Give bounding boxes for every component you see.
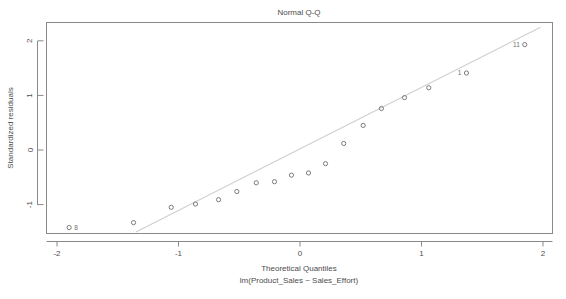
- outlier-label-group: 8111: [74, 41, 520, 231]
- data-point: [464, 71, 468, 75]
- y-tick-label: 0: [26, 147, 35, 152]
- x-tick-label: -1: [175, 249, 183, 258]
- data-point: [193, 202, 197, 206]
- y-tick-label: 1: [26, 93, 35, 98]
- data-point: [67, 225, 71, 229]
- data-point: [427, 86, 431, 90]
- outlier-label: 11: [513, 41, 520, 48]
- data-point: [272, 180, 276, 184]
- data-point: [323, 162, 327, 166]
- chart-subtitle: lm(Product_Sales ~ Sales_Effort): [240, 276, 359, 285]
- data-point: [523, 43, 527, 47]
- data-point: [361, 123, 365, 127]
- data-point: [289, 173, 293, 177]
- y-axis: -1012: [26, 38, 44, 208]
- x-axis-title: Theoretical Quantiles: [261, 264, 337, 273]
- reference-line: [136, 27, 541, 232]
- data-point: [254, 181, 258, 185]
- y-axis-title: Standardized residuals: [6, 87, 15, 168]
- outlier-label: 8: [74, 224, 78, 231]
- chart-title: Normal Q-Q: [277, 8, 320, 17]
- outlier-label: 1: [458, 69, 462, 76]
- x-axis: -2-1012: [47, 242, 553, 259]
- x-tick-label: 2: [541, 249, 546, 258]
- qq-plot-figure: 8111 -2-1012 -1012 Normal Q-Q Theoretica…: [0, 0, 566, 299]
- qq-reference-line: [136, 27, 541, 232]
- qq-plot-canvas: 8111 -2-1012 -1012 Normal Q-Q Theoretica…: [0, 0, 566, 299]
- data-point: [216, 198, 220, 202]
- plot-panel-border: [47, 23, 553, 234]
- data-point: [169, 205, 173, 209]
- data-point: [235, 189, 239, 193]
- data-point: [306, 171, 310, 175]
- y-tick-label: -1: [26, 200, 35, 208]
- data-point: [342, 141, 346, 145]
- x-tick-label: 0: [298, 249, 303, 258]
- x-tick-label: 1: [419, 249, 424, 258]
- x-tick-label: -2: [53, 249, 61, 258]
- data-point: [131, 221, 135, 225]
- y-tick-label: 2: [26, 38, 35, 43]
